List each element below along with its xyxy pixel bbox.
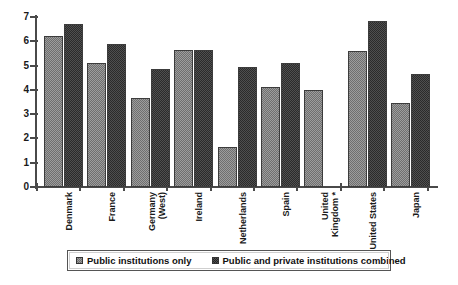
x-category-label-line: Japan <box>411 192 421 262</box>
legend-swatch-dark-icon <box>212 257 219 264</box>
bar-group <box>348 17 388 187</box>
bar-public-only <box>261 87 280 187</box>
bar-public-only <box>304 90 323 187</box>
y-tick-label-1: 1 <box>10 158 29 168</box>
bar-public-and-private <box>194 50 213 187</box>
bar-public-only <box>348 51 367 187</box>
bar-public-and-private <box>238 67 257 187</box>
bar-public-and-private <box>64 24 83 187</box>
bar-public-and-private <box>107 44 126 187</box>
bar-public-only <box>87 63 106 187</box>
legend-label: Public and private institutions combined <box>223 255 406 266</box>
bar-public-only <box>174 50 193 187</box>
plot-area <box>36 17 438 187</box>
bar-public-and-private <box>151 69 170 187</box>
bar-public-and-private <box>281 63 300 187</box>
y-tick-label-4: 4 <box>10 85 29 95</box>
bar-group <box>131 17 171 187</box>
bar-group <box>218 17 258 187</box>
y-tick-label-2: 2 <box>10 133 29 143</box>
bar-group <box>391 17 431 187</box>
bar-chart: 01234567 DenmarkFranceGermany(West)Irela… <box>0 0 458 285</box>
bar-group <box>261 17 301 187</box>
chart-legend: Public institutions only Public and priv… <box>67 250 391 271</box>
legend-swatch-light-icon <box>76 257 83 264</box>
bar-public-and-private <box>368 21 387 187</box>
bar-public-and-private <box>411 74 430 187</box>
legend-label: Public institutions only <box>87 255 192 266</box>
bar-public-only <box>44 36 63 187</box>
legend-item-public-and-private-combined: Public and private institutions combined <box>212 255 406 266</box>
y-tick-label-5: 5 <box>10 61 29 71</box>
y-tick-label-6: 6 <box>10 36 29 46</box>
y-tick-label-7: 7 <box>10 12 29 22</box>
legend-item-public-institutions-only: Public institutions only <box>76 255 192 266</box>
x-category-label-9: Japan <box>411 192 421 262</box>
y-tick-label-3: 3 <box>10 109 29 119</box>
y-tick-label-0: 0 <box>10 182 29 192</box>
bar-group <box>87 17 127 187</box>
bar-group <box>44 17 84 187</box>
bar-group <box>174 17 214 187</box>
bar-public-only <box>391 103 410 187</box>
bar-public-only <box>131 98 150 187</box>
bar-public-only <box>218 147 237 187</box>
bar-group <box>304 17 344 187</box>
